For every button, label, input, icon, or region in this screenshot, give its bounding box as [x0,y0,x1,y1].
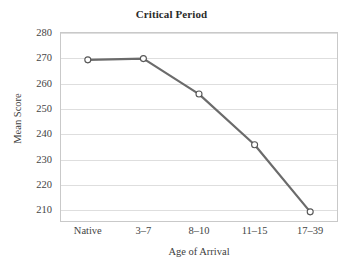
y-axis-tick-label: 230 [36,153,52,164]
y-axis-tick-labels: 210220230240250260270280 [0,32,56,222]
x-axis-tick-label: 8–10 [189,225,210,236]
y-axis-tick-label: 280 [36,27,52,38]
x-axis-tick-label: 17–39 [297,225,323,236]
x-axis-title: Age of Arrival [60,246,338,257]
x-axis-tick-label: Native [74,225,102,236]
data-point-marker [85,57,91,63]
data-point-marker [140,56,146,62]
data-series-layer [60,32,338,222]
chart-title: Critical Period [0,8,343,20]
y-axis-tick-label: 220 [36,179,52,190]
data-point-marker [196,91,202,97]
y-axis-title: Mean Score [12,74,23,164]
series-line [88,59,310,212]
x-axis-tick-label: 3–7 [136,225,152,236]
y-axis-tick-label: 240 [36,128,52,139]
data-point-marker [307,209,313,215]
y-axis-tick-label: 210 [36,204,52,215]
x-axis-tick-label: 11–15 [242,225,268,236]
data-point-marker [252,142,258,148]
x-axis-tick-labels: Native3–78–1011–1517–39 [60,225,338,241]
series-markers [85,56,313,215]
chart-figure: Critical Period 210220230240250260270280… [0,0,343,274]
y-axis-tick-label: 260 [36,77,52,88]
y-axis-tick-label: 250 [36,103,52,114]
y-axis-tick-label: 270 [36,52,52,63]
